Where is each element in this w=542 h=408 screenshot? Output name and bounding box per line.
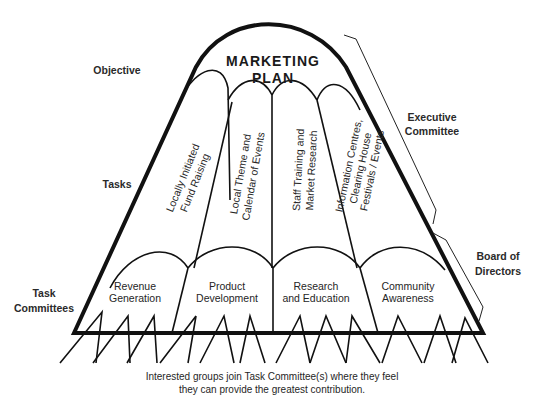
task-label-information-centres: Information Centres, Clearing House Fest… — [333, 118, 388, 219]
title-line-2: PLAN — [252, 70, 294, 86]
label-task-committees-2: Committees — [14, 302, 74, 314]
committee-revenue-2: Generation — [109, 292, 161, 304]
task-label-staff-training: Staff Training and Market Research — [290, 128, 319, 211]
interested-groups-zigzag — [60, 312, 488, 363]
task-label-theme-calendar: Local Theme and Calendar of Events — [226, 129, 266, 221]
task-label-fund-raising: Locally Initiated Fund Raising — [163, 142, 213, 219]
label-objective: Objective — [93, 64, 140, 76]
label-task-committees-1: Task — [32, 287, 55, 299]
task-arches — [183, 70, 360, 268]
committee-community-2: Awareness — [382, 292, 434, 304]
committee-research-1: Research — [294, 280, 339, 292]
committee-product-1: Product — [209, 280, 245, 292]
caption-line-2: they can provide the greatest contributi… — [179, 384, 365, 395]
committee-research-2: and Education — [282, 292, 349, 304]
label-tasks: Tasks — [103, 178, 132, 190]
committee-product-2: Development — [196, 292, 258, 304]
committee-revenue-1: Revenue — [114, 280, 156, 292]
label-executive-1: Executive — [407, 111, 456, 123]
caption-line-1: Interested groups join Task Committee(s)… — [146, 371, 399, 382]
marketing-plan-diagram: MARKETING PLAN Objective Tasks Task Comm… — [0, 0, 542, 408]
committee-community-1: Community — [381, 280, 435, 292]
label-board-2: Directors — [475, 265, 521, 277]
title-line-1: MARKETING — [226, 53, 320, 69]
label-board-1: Board of — [476, 250, 520, 262]
label-executive-2: Committee — [405, 125, 459, 137]
